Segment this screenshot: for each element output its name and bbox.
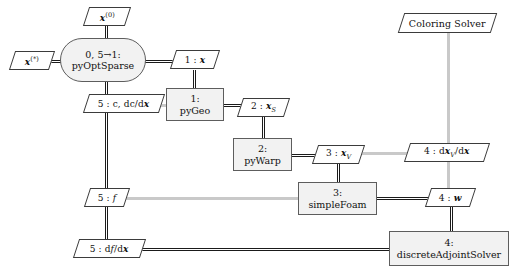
data-x: 1 : x: [170, 50, 220, 69]
data-coloring-solver-label: Coloring Solver: [409, 18, 486, 29]
connector-simplefoam-to-w: [376, 197, 431, 200]
data-coloring-solver: Coloring Solver: [398, 13, 497, 33]
data-constraints: 5 : c, dc/dx: [83, 94, 165, 113]
connector-xv-to-simplefoam: [337, 164, 340, 184]
data-constraints-label: 5 : c, dc/dx: [98, 99, 149, 109]
data-xv-label: 3 : xV: [326, 148, 351, 161]
node-pygeo-number: 1:: [190, 93, 199, 104]
data-xs: 2 : xS: [237, 98, 290, 117]
data-x0: x(0): [83, 7, 131, 26]
data-dfdx: 5 : df/dx: [73, 239, 146, 258]
connector-w-to-das: [450, 206, 453, 232]
data-f: 5 : f: [84, 188, 130, 207]
data-dxvdx-label: 4 : dxV/dx: [424, 146, 469, 159]
data-xstar: x(*): [9, 51, 55, 70]
connector-das-to-dfdx: [132, 248, 390, 251]
data-xv: 3 : xV: [312, 145, 365, 164]
connector-simplefoam-to-f: [126, 197, 299, 200]
data-dfdx-label: 5 : df/dx: [90, 244, 129, 254]
data-dxvdx: 4 : dxV/dx: [404, 143, 490, 162]
node-discreteadjointsolver[interactable]: 4: discreteAdjointSolver: [389, 231, 509, 266]
node-pyoptsparse[interactable]: 0, 5→1: pyOptSparse: [60, 38, 146, 82]
data-x-label: 1 : x: [185, 55, 205, 65]
connector-xs-to-pywarp: [262, 117, 265, 139]
data-f-label: 5 : f: [98, 193, 116, 203]
node-pyoptsparse-name: pyOptSparse: [72, 60, 134, 71]
data-w-label: 4 : w: [439, 193, 462, 203]
node-simplefoam[interactable]: 3: simpleFoam: [298, 182, 377, 215]
node-pywarp-number: 2:: [258, 143, 267, 154]
data-xs-label: 2 : xS: [251, 101, 276, 114]
node-pywarp[interactable]: 2: pyWarp: [233, 138, 292, 171]
node-pyoptsparse-number: 0, 5→1:: [85, 49, 120, 60]
data-xstar-label: x(*): [25, 55, 39, 67]
connector-coloring-column: [447, 32, 450, 152]
data-w: 4 : w: [425, 188, 476, 207]
node-pygeo-name: pyGeo: [180, 105, 210, 116]
node-pygeo[interactable]: 1: pyGeo: [166, 88, 224, 121]
node-discreteadjointsolver-number: 4:: [444, 237, 453, 248]
node-discreteadjointsolver-name: discreteAdjointSolver: [397, 249, 501, 260]
node-simplefoam-number: 3:: [333, 187, 342, 198]
node-pywarp-name: pyWarp: [244, 155, 281, 166]
data-x0-label: x(0): [100, 11, 115, 23]
connector-x-to-pygeo: [193, 70, 196, 90]
node-simplefoam-name: simpleFoam: [308, 199, 366, 210]
xdsm-diagram: 0, 5→1: pyOptSparse 1: pyGeo 2: pyWarp 3…: [0, 0, 520, 279]
